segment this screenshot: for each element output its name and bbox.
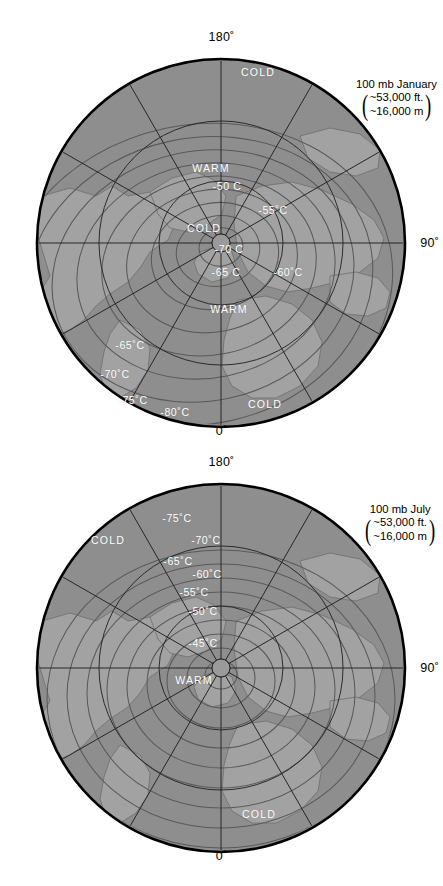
caption-january: 100 mb January ( ~53,000 ft. ~16,000 m ) (356, 78, 437, 118)
caption-title-july: 100 mb July (363, 503, 437, 516)
axis-label-top-july: 180˚ (0, 455, 443, 469)
map-panel-july: 180˚ 90˚ 0˚ 100 mb July ( ~53,000 ft. ~1… (0, 443, 443, 886)
caption-parenthetical-july: ( ~53,000 ft. ~16,000 m ) (363, 516, 437, 543)
right-paren-glyph: ) (429, 519, 435, 541)
axis-label-right-january: 90˚ (420, 236, 439, 250)
caption-meters-january: ~16,000 m (370, 105, 424, 118)
left-paren-glyph: ( (362, 94, 368, 116)
caption-meters-july: ~16,000 m (373, 530, 427, 543)
caption-parenthetical-january: ( ~53,000 ft. ~16,000 m ) (356, 91, 437, 118)
caption-feet-january: ~53,000 ft. (370, 91, 424, 104)
pole-marker-january (212, 234, 230, 252)
caption-feet-july: ~53,000 ft. (373, 516, 427, 529)
polar-map-january (0, 0, 443, 443)
left-paren-glyph: ( (365, 519, 371, 541)
map-panel-january: 180˚ 90˚ 0˚ 100 mb January ( ~53,000 ft.… (0, 0, 443, 443)
caption-july: 100 mb July ( ~53,000 ft. ~16,000 m ) (363, 503, 437, 543)
axis-label-right-july: 90˚ (420, 661, 439, 675)
pole-marker-july (212, 659, 230, 677)
axis-label-bottom-january: 0˚ (0, 424, 443, 438)
axis-label-top-january: 180˚ (0, 30, 443, 44)
axis-label-bottom-july: 0˚ (0, 849, 443, 863)
right-paren-glyph: ) (425, 94, 431, 116)
